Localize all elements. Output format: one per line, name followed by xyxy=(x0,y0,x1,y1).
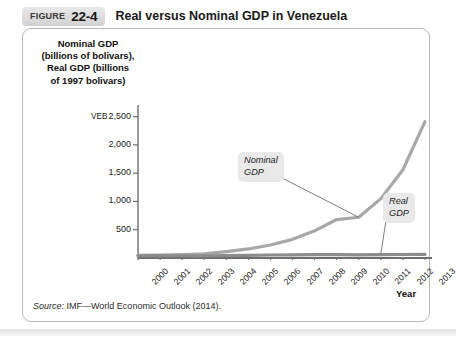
y-axis-title: Nominal GDP (billions of bolivars), Real… xyxy=(24,38,152,87)
y-tick-label-2500: VEB2,500 xyxy=(56,111,131,121)
y-axis-title-line-3: Real GDP (billions xyxy=(24,62,152,74)
x-axis-title: Year xyxy=(396,288,416,299)
page-bottom-edge xyxy=(0,329,456,336)
source-label: Source: xyxy=(33,301,64,311)
callout-nominal-gdp: Nominal GDP xyxy=(238,152,284,182)
y-axis-title-line-1: Nominal GDP xyxy=(24,38,152,50)
figure-number: 22-4 xyxy=(71,9,97,24)
y-axis-title-line-4: of 1997 bolivars) xyxy=(24,75,152,87)
chart-svg xyxy=(131,105,433,260)
y-axis-title-line-2: (billions of bolivars), xyxy=(24,50,152,62)
figure-header: FIGURE 22-4 Real versus Nominal GDP in V… xyxy=(22,6,432,26)
currency-prefix: VEB xyxy=(91,112,107,121)
y-tick-label-1000: 1,000 xyxy=(56,195,131,205)
figure-badge: FIGURE 22-4 xyxy=(22,7,105,26)
source-note: Source: IMF—World Economic Outlook (2014… xyxy=(33,301,221,311)
figure-label: FIGURE xyxy=(30,11,65,21)
source-text: IMF—World Economic Outlook (2014). xyxy=(64,301,221,311)
page-title: Real versus Nominal GDP in Venezuela xyxy=(115,9,347,23)
y-tick-label-1500: 1,500 xyxy=(56,167,131,177)
y-tick-label-500: 500 xyxy=(56,224,131,234)
y-tick-label-2000: 2,000 xyxy=(56,139,131,149)
callout-real-gdp: Real GDP xyxy=(383,193,415,223)
x-tick-label-2013: 2013 xyxy=(437,266,456,287)
plot-area xyxy=(131,105,433,260)
figure-root: FIGURE 22-4 Real versus Nominal GDP in V… xyxy=(0,0,456,342)
